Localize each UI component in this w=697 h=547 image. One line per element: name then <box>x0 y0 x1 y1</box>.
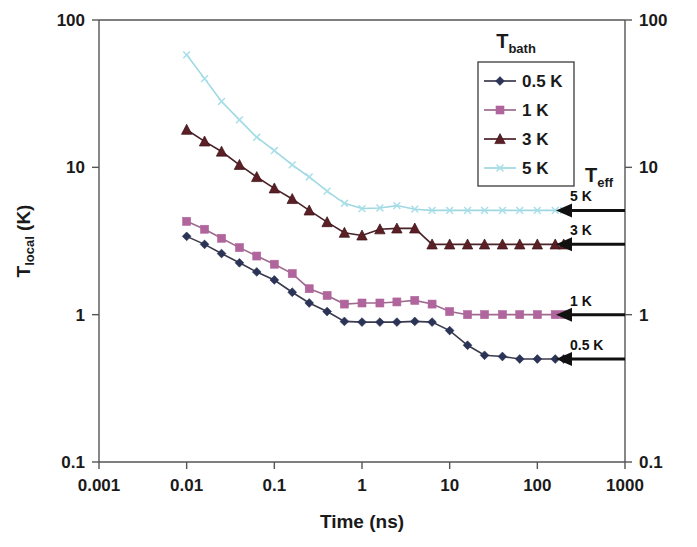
data-point <box>498 311 506 319</box>
legend-item-1-k[interactable]: 1 K <box>484 101 549 120</box>
data-point <box>252 268 261 277</box>
series-line <box>187 221 564 314</box>
data-point <box>218 234 226 242</box>
x-tick-label: 0.1 <box>263 476 287 495</box>
legend-item-5-k[interactable]: 5 K <box>484 159 549 178</box>
y-tick-label: 10 <box>66 158 85 177</box>
data-point <box>289 161 296 168</box>
series-line <box>187 55 564 211</box>
data-point <box>446 308 454 316</box>
annotation-label: 3 K <box>570 222 592 238</box>
data-point <box>269 183 279 193</box>
data-point <box>324 188 331 195</box>
legend-item-0-5-k[interactable]: 0.5 K <box>484 72 563 91</box>
data-point <box>428 318 437 327</box>
x-tick-label: 1000 <box>606 476 644 495</box>
x-tick-label: 100 <box>523 476 551 495</box>
data-point <box>393 298 401 306</box>
data-point <box>288 270 296 278</box>
annotation-arrow-head <box>556 203 572 217</box>
data-point <box>358 318 367 327</box>
y-tick-label: 100 <box>57 11 85 30</box>
data-point <box>375 318 384 327</box>
data-point <box>480 351 489 360</box>
y-tick-label-right: 1 <box>639 306 648 325</box>
data-point <box>253 252 261 260</box>
arrow-annotations: 5 K3 K1 K0.5 K <box>556 188 625 366</box>
chart-page: 0.10.11110101001000.0010.010.11101001000… <box>0 0 697 547</box>
data-point <box>498 352 507 361</box>
legend-item-label: 1 K <box>522 101 549 120</box>
legend-item-label: 0.5 K <box>522 72 563 91</box>
x-axis-title: Time (ns) <box>320 511 404 532</box>
legend-item-label: 3 K <box>522 130 549 149</box>
data-point <box>411 296 419 304</box>
x-tick-label: 0.01 <box>170 476 203 495</box>
data-point <box>305 285 313 293</box>
data-point <box>516 311 524 319</box>
data-point <box>218 98 225 105</box>
data-point <box>234 159 244 169</box>
data-point <box>235 244 243 252</box>
data-point <box>376 299 384 307</box>
series-line <box>187 130 564 245</box>
legend-marker <box>496 77 505 86</box>
data-point <box>217 249 226 258</box>
y-tick-label-right: 0.1 <box>639 453 663 472</box>
data-point <box>182 232 191 241</box>
data-point <box>216 146 226 156</box>
x-tick-label: 10 <box>440 476 459 495</box>
data-point <box>200 240 209 249</box>
data-point <box>428 300 436 308</box>
data-point <box>305 299 314 308</box>
data-point <box>271 147 278 154</box>
annotation-label: 1 K <box>570 293 592 309</box>
legend-title: Tbath <box>496 30 536 56</box>
legend-marker <box>496 106 504 114</box>
data-point <box>392 318 401 327</box>
legend-item-label: 5 K <box>522 159 549 178</box>
y-axis-title: Tlocal (K) <box>13 205 37 278</box>
data-point <box>323 291 331 299</box>
data-point <box>253 134 260 141</box>
series-5-k <box>183 51 567 213</box>
data-point <box>322 217 332 227</box>
data-point <box>533 355 542 364</box>
x-tick-label: 0.001 <box>78 476 121 495</box>
data-point <box>481 311 489 319</box>
y-tick-label-right: 100 <box>639 11 667 30</box>
data-point <box>410 317 419 326</box>
annotation-arrow-head <box>556 308 572 322</box>
annotation-arrow-head <box>556 352 572 366</box>
y-tick-label: 1 <box>76 306 85 325</box>
data-point <box>201 75 208 82</box>
data-point <box>183 217 191 225</box>
data-point <box>236 116 243 123</box>
data-point <box>183 51 190 58</box>
y-axis-title-text: Tlocal (K) <box>13 205 37 278</box>
y-tick-label: 0.1 <box>61 453 85 472</box>
series-line <box>187 236 564 359</box>
data-point <box>306 174 313 181</box>
data-point <box>339 227 349 237</box>
annotation-label: 0.5 K <box>570 337 603 353</box>
data-point <box>235 258 244 267</box>
data-point <box>323 307 332 316</box>
data-point <box>304 205 314 215</box>
legend: Tbath0.5 K1 K3 K5 K <box>478 30 574 186</box>
data-point <box>201 225 209 233</box>
annotation-label: 5 K <box>570 188 592 204</box>
data-point <box>515 355 524 364</box>
data-point <box>181 124 191 134</box>
data-point <box>252 172 262 182</box>
legend-item-3-k[interactable]: 3 K <box>484 130 549 149</box>
y-tick-label-right: 10 <box>639 158 658 177</box>
teff-label: Teff <box>585 164 614 190</box>
x-tick-label: 1 <box>357 476 366 495</box>
data-point <box>199 136 209 146</box>
data-point <box>533 311 541 319</box>
data-point <box>464 311 472 319</box>
data-point <box>287 194 297 204</box>
data-point <box>270 260 278 268</box>
data-point <box>340 300 348 308</box>
